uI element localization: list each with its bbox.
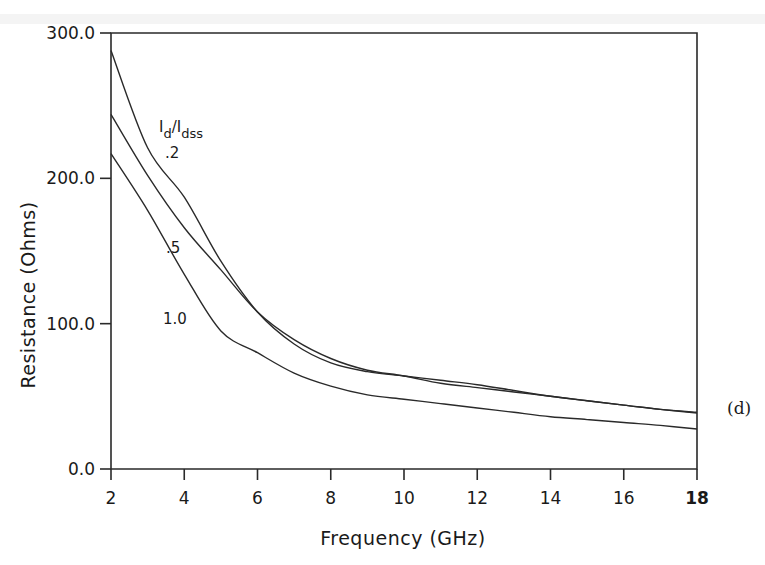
x-tick-label: 8	[325, 488, 336, 508]
svg-text:Id/Idss: Id/Idss	[159, 118, 203, 141]
curve-label-0.2: .2	[165, 144, 179, 162]
curve-p2	[111, 50, 697, 413]
y-axis-ticks: 0.0100.0200.0300.0	[46, 23, 111, 479]
curve-p5	[111, 114, 697, 412]
legend-title-sub1: d	[163, 126, 171, 141]
x-axis-title: Frequency (GHz)	[320, 527, 486, 549]
curve-1p0	[111, 154, 697, 429]
legend-title-slash: /I	[172, 118, 181, 136]
x-tick-label: 10	[393, 488, 415, 508]
x-tick-label: 14	[540, 488, 562, 508]
legend-title: Id/Idss	[159, 118, 203, 141]
x-axis-ticks: 24681012141618	[106, 469, 709, 508]
panel-label: (d)	[727, 398, 751, 418]
legend-title-sub2: dss	[181, 126, 203, 141]
curve-label-0.5: .5	[166, 239, 180, 257]
chart: 24681012141618 0.0100.0200.0300.0 Freque…	[0, 0, 765, 565]
x-tick-label: 12	[466, 488, 488, 508]
y-tick-label: 0.0	[68, 459, 95, 479]
x-tick-label: 6	[252, 488, 263, 508]
x-tick-label: 4	[179, 488, 190, 508]
y-tick-label: 100.0	[46, 314, 95, 334]
scan-band	[0, 14, 765, 24]
x-tick-label: 2	[106, 488, 117, 508]
x-tick-label: 18	[685, 488, 709, 508]
curve-label-1.0: 1.0	[163, 310, 187, 328]
x-tick-label: 16	[613, 488, 635, 508]
curves	[111, 50, 697, 429]
y-tick-label: 300.0	[46, 23, 95, 43]
y-tick-label: 200.0	[46, 168, 95, 188]
y-axis-title: Resistance (Ohms)	[17, 201, 39, 388]
